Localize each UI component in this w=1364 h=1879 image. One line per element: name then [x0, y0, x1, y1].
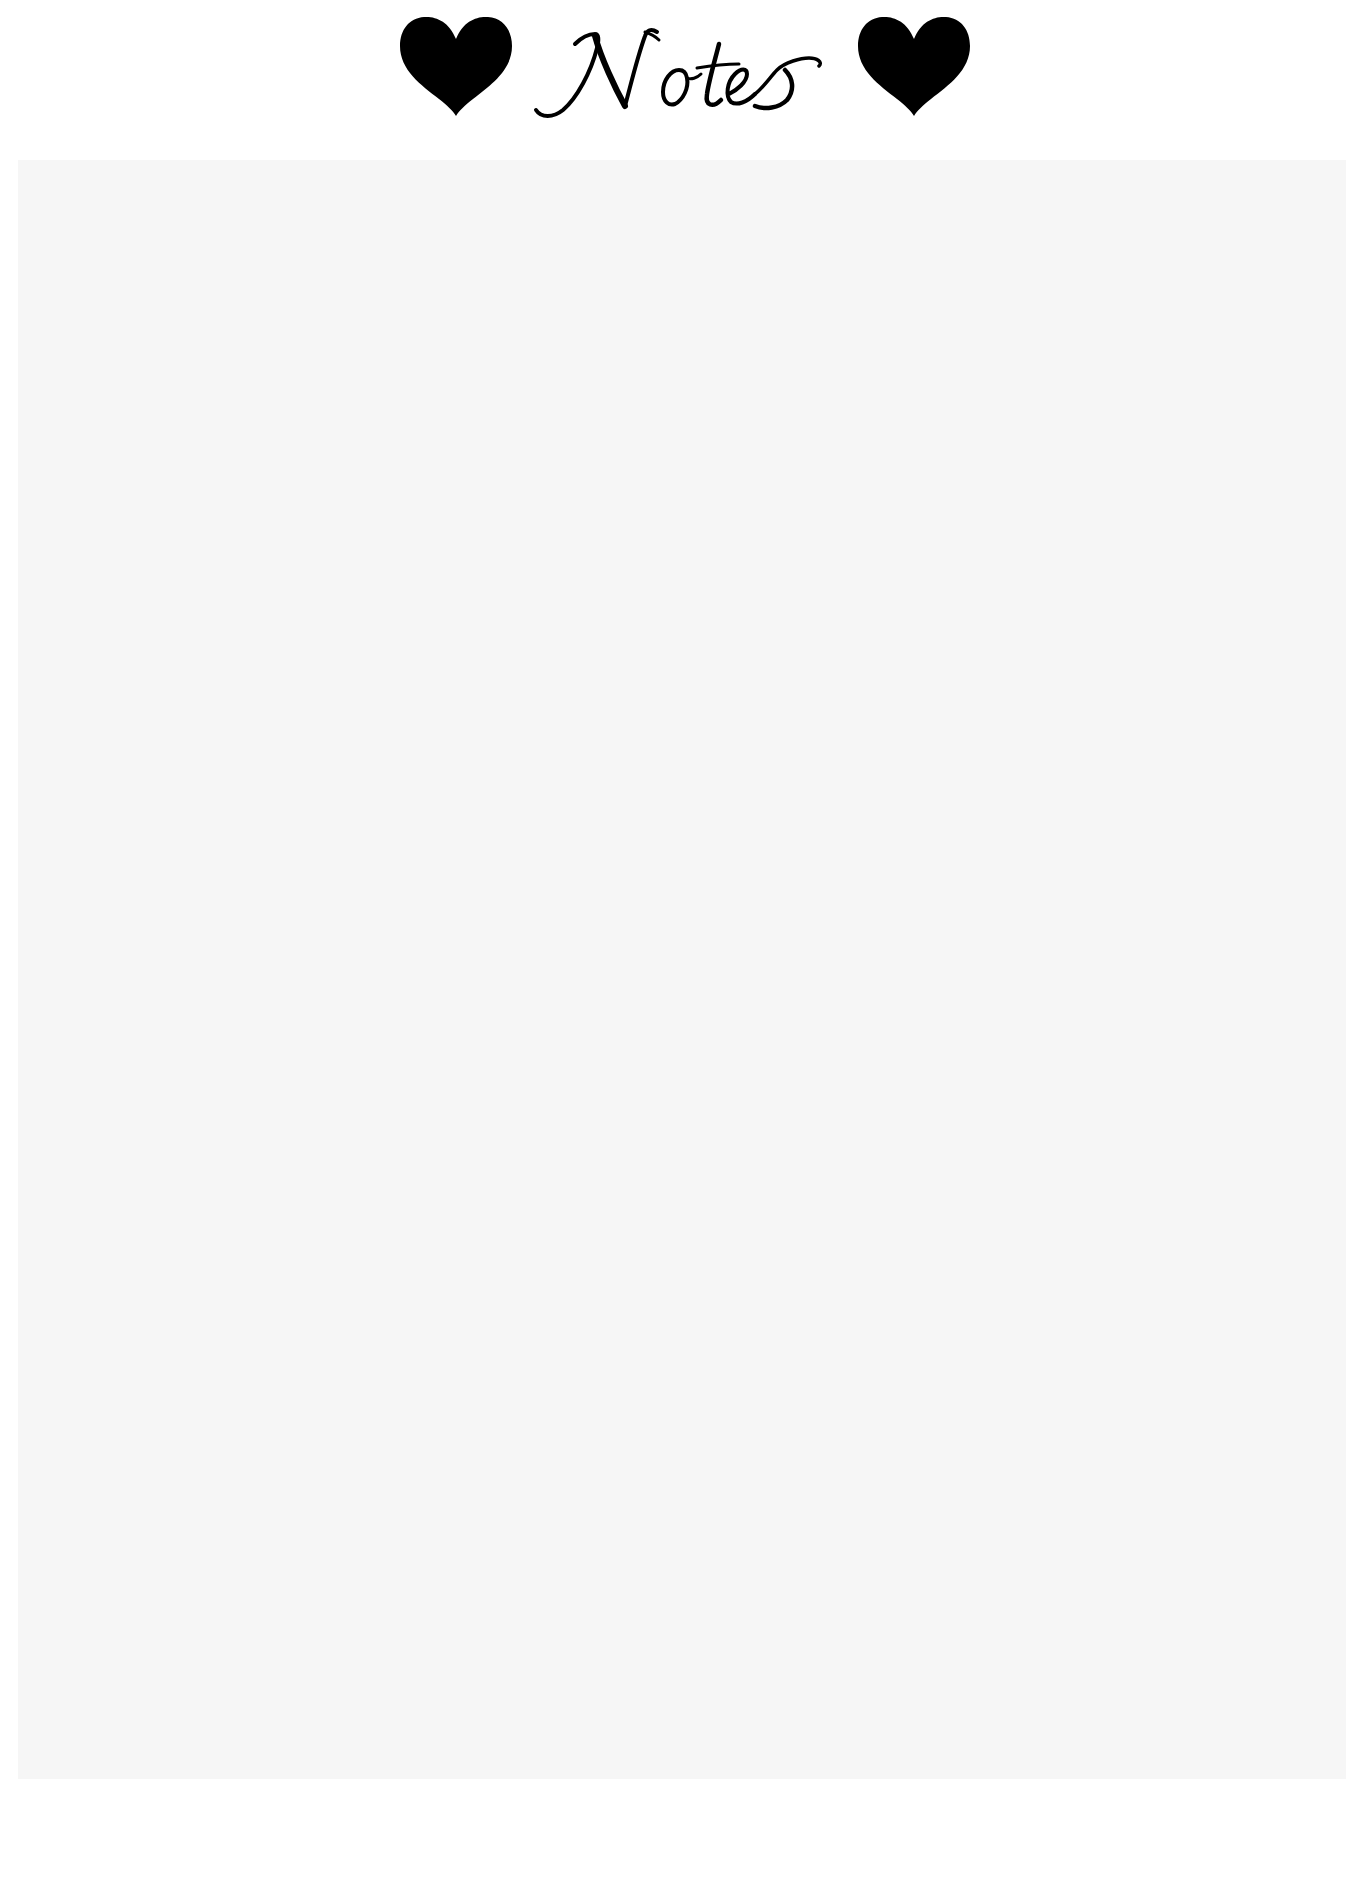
- page-header: Notes: [0, 0, 1364, 140]
- notes-area[interactable]: [18, 160, 1346, 1779]
- page-title: Notes: [533, 14, 825, 118]
- heart-icon: [399, 15, 513, 117]
- heart-icon: [857, 15, 971, 117]
